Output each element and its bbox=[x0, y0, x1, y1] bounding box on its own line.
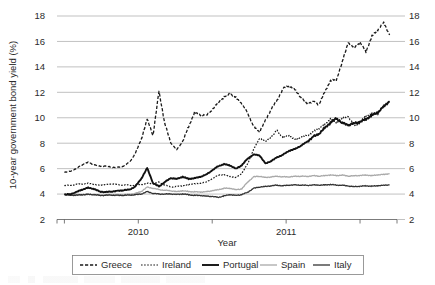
y-axis-title: 10-year government bond yield (%) bbox=[7, 41, 18, 189]
y-tick-left-10: 10 bbox=[34, 112, 45, 123]
x-tick-label-2011: 2011 bbox=[276, 226, 296, 237]
y-tick-left-12: 12 bbox=[34, 87, 45, 98]
y-tick-left-4: 4 bbox=[40, 188, 45, 199]
legend-label-ireland: Ireland bbox=[162, 259, 191, 270]
y-tick-right-8: 8 bbox=[409, 138, 414, 149]
x-tick-label-2010: 2010 bbox=[128, 226, 149, 237]
y-tick-left-18: 18 bbox=[34, 10, 45, 21]
y-tick-right-2: 2 bbox=[409, 214, 414, 225]
y-tick-left-2: 2 bbox=[40, 214, 45, 225]
y-tick-right-4: 4 bbox=[409, 188, 414, 199]
y-tick-right-12: 12 bbox=[409, 87, 420, 98]
legend-label-italy: Italy bbox=[334, 259, 352, 270]
legend-label-greece: Greece bbox=[101, 259, 132, 270]
legend-label-portugal: Portugal bbox=[223, 259, 258, 270]
chart-figure: 24681012141618 24681012141618 20102011 1… bbox=[0, 0, 435, 285]
y-tick-right-16: 16 bbox=[409, 36, 420, 47]
y-tick-right-6: 6 bbox=[409, 163, 414, 174]
bond-yield-line-chart: 24681012141618 24681012141618 20102011 1… bbox=[0, 0, 435, 285]
y-tick-right-10: 10 bbox=[409, 112, 420, 123]
y-tick-left-6: 6 bbox=[40, 163, 45, 174]
x-axis-title: Year bbox=[217, 237, 236, 248]
y-tick-right-18: 18 bbox=[409, 10, 420, 21]
y-tick-left-14: 14 bbox=[34, 61, 45, 72]
y-tick-left-16: 16 bbox=[34, 36, 45, 47]
y-tick-left-8: 8 bbox=[40, 138, 45, 149]
figure-caption-artifact bbox=[8, 276, 213, 283]
y-tick-right-14: 14 bbox=[409, 61, 420, 72]
legend-label-spain: Spain bbox=[281, 259, 305, 270]
